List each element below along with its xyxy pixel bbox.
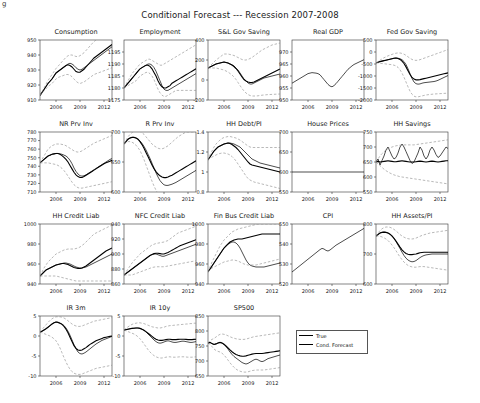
- svg-text:2009: 2009: [242, 196, 255, 202]
- panel-plot: 600700800200620092012: [354, 221, 451, 296]
- svg-text:-1500: -1500: [358, 85, 373, 91]
- svg-text:800: 800: [363, 221, 373, 227]
- svg-text:980: 980: [27, 241, 37, 247]
- legend-label: Cond. Forecast: [316, 342, 353, 348]
- series-line: [376, 162, 448, 184]
- panel-title: HH Debt/PI: [208, 120, 280, 128]
- series-line: [376, 58, 448, 80]
- svg-text:2009: 2009: [326, 196, 339, 202]
- panel-plot: 950955960965970200620092012: [270, 37, 367, 112]
- svg-text:2009: 2009: [74, 380, 87, 386]
- svg-text:2009: 2009: [158, 196, 171, 202]
- svg-text:-10: -10: [28, 373, 36, 379]
- svg-text:700: 700: [279, 129, 289, 135]
- series-line: [208, 342, 280, 356]
- svg-text:2012: 2012: [434, 288, 447, 294]
- svg-text:920: 920: [111, 236, 121, 242]
- svg-text:600: 600: [279, 169, 289, 175]
- svg-text:2006: 2006: [50, 288, 63, 294]
- svg-text:1: 1: [201, 169, 204, 175]
- svg-text:-5: -5: [116, 353, 121, 359]
- svg-text:600: 600: [363, 174, 373, 180]
- svg-text:2006: 2006: [386, 104, 399, 110]
- svg-text:750: 750: [195, 343, 205, 349]
- panel-plot: -10-505200620092012: [18, 313, 115, 388]
- svg-text:0: 0: [369, 49, 372, 55]
- svg-text:550: 550: [279, 189, 289, 195]
- svg-text:200: 200: [195, 57, 205, 63]
- panel-plot: 0.811.21.4200620092012: [186, 129, 283, 204]
- svg-text:900: 900: [111, 251, 121, 257]
- panel-title: CPI: [292, 212, 364, 220]
- panel-title: HH Credit Liab: [40, 212, 112, 220]
- svg-text:2006: 2006: [50, 380, 63, 386]
- svg-text:2009: 2009: [158, 288, 171, 294]
- svg-text:2009: 2009: [326, 104, 339, 110]
- svg-text:760: 760: [27, 146, 37, 152]
- figure-title: Conditional Forecast --- Recession 2007-…: [0, 10, 480, 20]
- svg-text:880: 880: [111, 266, 121, 272]
- svg-text:-500: -500: [361, 61, 372, 67]
- series-line: [376, 161, 448, 162]
- svg-text:730: 730: [27, 172, 37, 178]
- svg-text:650: 650: [279, 149, 289, 155]
- series-line: [376, 50, 448, 63]
- svg-text:5: 5: [33, 313, 36, 319]
- svg-text:2009: 2009: [74, 104, 87, 110]
- svg-text:550: 550: [363, 189, 373, 195]
- svg-text:-1000: -1000: [358, 73, 373, 79]
- svg-text:700: 700: [363, 251, 373, 257]
- svg-text:960: 960: [279, 73, 289, 79]
- panel-title: Employment: [124, 28, 196, 36]
- svg-text:600: 600: [111, 189, 121, 195]
- series-line: [376, 63, 448, 97]
- svg-text:940: 940: [27, 52, 37, 58]
- svg-text:550: 550: [279, 221, 289, 227]
- svg-text:860: 860: [111, 281, 121, 287]
- svg-text:2006: 2006: [302, 288, 315, 294]
- series-line: [376, 232, 448, 255]
- figure-root: g Conditional Forecast --- Recession 200…: [0, 0, 480, 403]
- svg-text:650: 650: [195, 373, 205, 379]
- svg-text:2009: 2009: [410, 196, 423, 202]
- svg-text:950: 950: [27, 37, 37, 43]
- panel-plot: 710720730740750760770780200620092012: [18, 129, 115, 204]
- panel-plot: 650700750800850200620092012: [186, 313, 283, 388]
- svg-text:2006: 2006: [218, 104, 231, 110]
- svg-text:1000: 1000: [192, 221, 205, 227]
- panel-plot: -2000200400200620092012: [186, 37, 283, 112]
- svg-text:920: 920: [27, 82, 37, 88]
- svg-text:2006: 2006: [134, 104, 147, 110]
- svg-text:1000: 1000: [24, 221, 37, 227]
- svg-text:960: 960: [195, 261, 205, 267]
- panel-title: NFC Credit Liab: [124, 212, 196, 220]
- svg-text:2006: 2006: [134, 380, 147, 386]
- panel-title: Fin Bus Credit Liab: [208, 212, 280, 220]
- panel-title: SP500: [208, 304, 280, 312]
- legend-swatch: [299, 344, 313, 345]
- panel-title: Real GDP: [292, 28, 364, 36]
- panel-title: S&L Gov Saving: [208, 28, 280, 36]
- panel-plot: -10-505200620092012: [102, 313, 199, 388]
- svg-text:930: 930: [27, 67, 37, 73]
- svg-text:2006: 2006: [302, 104, 315, 110]
- svg-text:750: 750: [363, 129, 373, 135]
- panel-title: House Prices: [292, 120, 364, 128]
- panel-plot: 520530540550200620092012: [270, 221, 367, 296]
- panel-title: Fed Gov Saving: [376, 28, 448, 36]
- svg-text:2009: 2009: [74, 288, 87, 294]
- svg-text:2009: 2009: [242, 104, 255, 110]
- svg-text:2006: 2006: [386, 288, 399, 294]
- svg-text:0: 0: [201, 77, 204, 83]
- svg-text:2006: 2006: [50, 104, 63, 110]
- panel-plot: -2000-1500-1000-5000500200620092012: [354, 37, 451, 112]
- chart-legend: TrueCond. Forecast: [296, 330, 368, 354]
- svg-text:1195: 1195: [108, 49, 121, 55]
- svg-text:2009: 2009: [74, 196, 87, 202]
- svg-text:970: 970: [279, 49, 289, 55]
- series-line: [208, 342, 280, 364]
- svg-text:0: 0: [117, 333, 120, 339]
- svg-text:0.8: 0.8: [197, 189, 205, 195]
- svg-text:780: 780: [27, 129, 37, 135]
- svg-text:520: 520: [279, 281, 289, 287]
